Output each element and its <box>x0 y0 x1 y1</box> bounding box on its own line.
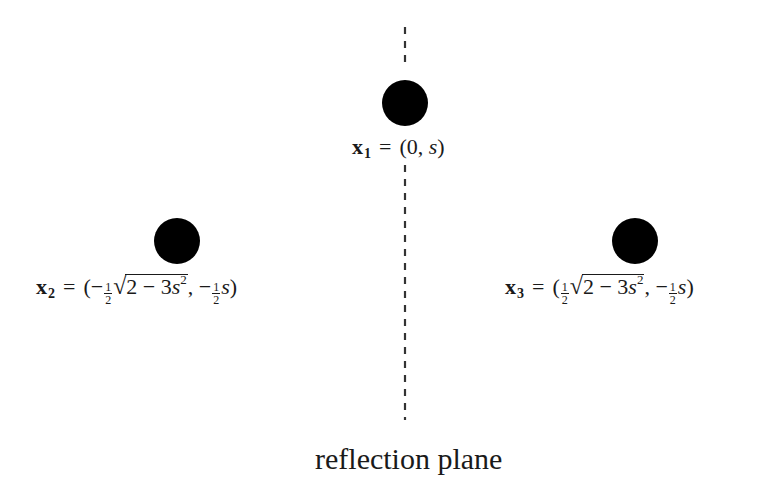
vector-index: 1 <box>364 147 371 161</box>
point-x3-label: x3 = (12√2 − 3s2, −12s) <box>505 274 694 309</box>
fraction-half: 12 <box>561 281 569 306</box>
vector-symbol: x <box>352 136 363 158</box>
square-root: √2 − 3s2 <box>113 274 188 298</box>
equals-sign: = <box>63 276 75 298</box>
minus-sign: − <box>655 276 667 298</box>
fraction-half: 12 <box>669 281 677 306</box>
open-paren: ( <box>83 276 90 298</box>
close-paren: ) <box>230 276 237 298</box>
radicand: 2 − 3s2 <box>582 274 644 298</box>
exponent: 2 <box>637 272 644 287</box>
fraction-half: 12 <box>212 281 220 306</box>
open-paren: ( <box>552 276 559 298</box>
radicand-constant: 2 − 3 <box>126 274 171 299</box>
vector-symbol: x <box>36 276 47 298</box>
close-paren: ) <box>437 136 444 158</box>
frac-denominator: 2 <box>669 294 677 306</box>
minus-sign: − <box>91 276 103 298</box>
point-x2-label: x2 = (−12√2 − 3s2, −12s) <box>36 274 237 309</box>
square-root: √2 − 3s2 <box>570 274 645 298</box>
point-x1-dot <box>382 80 428 126</box>
point-x1-label: x1 = (0, s) <box>352 136 445 158</box>
radicand-constant: 2 − 3 <box>583 274 628 299</box>
close-paren: ) <box>686 276 693 298</box>
vector-index: 2 <box>48 287 55 301</box>
frac-denominator: 2 <box>104 294 112 306</box>
vector-index: 3 <box>517 287 524 301</box>
comma: , <box>418 136 424 158</box>
vector-symbol: x <box>505 276 516 298</box>
radicand-variable: s <box>628 274 637 299</box>
exponent: 2 <box>180 272 187 287</box>
frac-denominator: 2 <box>212 294 220 306</box>
frac-denominator: 2 <box>561 294 569 306</box>
fraction-half: 12 <box>104 281 112 306</box>
minus-sign: − <box>199 276 211 298</box>
point-x3-dot <box>612 218 658 264</box>
radicand: 2 − 3s2 <box>125 274 187 298</box>
equals-sign: = <box>379 136 391 158</box>
point-x2-dot <box>154 218 200 264</box>
open-paren: ( <box>399 136 406 158</box>
y-variable: s <box>678 276 687 298</box>
y-variable: s <box>221 276 230 298</box>
comma: , <box>188 276 194 298</box>
equals-sign: = <box>532 276 544 298</box>
reflection-plane-caption: reflection plane <box>315 444 502 474</box>
comma: , <box>644 276 650 298</box>
x-coordinate: 0 <box>407 136 418 158</box>
diagram-canvas <box>0 0 775 499</box>
y-coordinate: s <box>429 136 438 158</box>
